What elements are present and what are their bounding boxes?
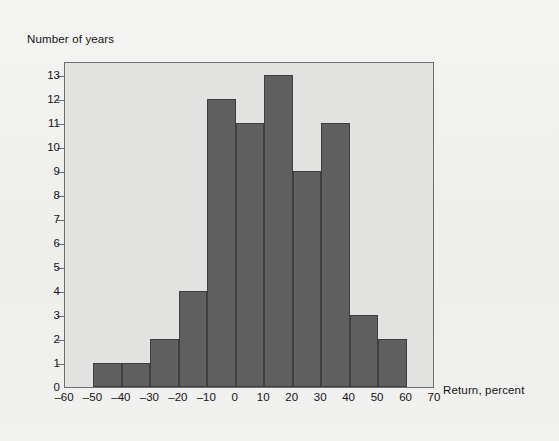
y-tick-label: 4 xyxy=(54,286,60,298)
histogram-bar xyxy=(122,363,150,387)
x-tick-label: 60 xyxy=(399,392,412,404)
y-tick-label: 13 xyxy=(47,71,60,83)
x-tick-label: –30 xyxy=(140,392,159,404)
y-tick-label: 9 xyxy=(54,167,60,179)
x-tick-label: –60 xyxy=(54,392,73,404)
y-tick-label: 8 xyxy=(54,190,60,202)
histogram-figure: Number of years 012345678910111213 –60–5… xyxy=(0,0,559,441)
x-tick-label: –20 xyxy=(168,392,187,404)
histogram-bar xyxy=(321,123,349,387)
histogram-bar xyxy=(293,171,321,387)
histogram-bar xyxy=(350,315,378,387)
x-tick-label: 10 xyxy=(257,392,270,404)
histogram-bar xyxy=(179,291,207,387)
y-tick-label: 2 xyxy=(54,334,60,346)
y-tick-label: 7 xyxy=(54,214,60,226)
x-tick-label: 20 xyxy=(285,392,298,404)
x-tick-label: 50 xyxy=(371,392,384,404)
histogram-bar xyxy=(264,75,292,387)
histogram-bar xyxy=(207,99,235,387)
y-tick-label: 11 xyxy=(48,119,60,131)
y-tick-label: 3 xyxy=(54,310,60,322)
x-tick-label: 0 xyxy=(232,392,238,404)
histogram-bar xyxy=(236,123,264,387)
x-tick-label: –40 xyxy=(111,392,130,404)
histogram-bar xyxy=(378,339,406,387)
x-tick-label: –10 xyxy=(197,392,216,404)
x-axis-label: Return, percent xyxy=(443,384,525,396)
bars-container xyxy=(65,63,433,387)
y-axis-label: Number of years xyxy=(27,33,114,45)
y-tick-label: 12 xyxy=(47,95,60,107)
histogram-bar xyxy=(93,363,121,387)
y-tick-label: 1 xyxy=(54,358,60,370)
x-tick-label: 40 xyxy=(342,392,355,404)
x-tick-label: 70 xyxy=(428,392,441,404)
x-tick-label: 30 xyxy=(314,392,327,404)
histogram-bar xyxy=(150,339,178,387)
y-tick-label: 10 xyxy=(47,143,60,155)
x-tick-label: –50 xyxy=(83,392,102,404)
plot-area xyxy=(64,62,434,388)
y-tick-label: 6 xyxy=(54,238,60,250)
y-tick-label: 5 xyxy=(54,262,60,274)
